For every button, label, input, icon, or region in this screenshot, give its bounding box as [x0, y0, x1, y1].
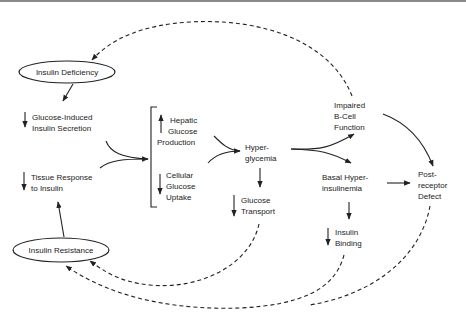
cellular-line2: Glucose: [166, 182, 196, 191]
dashed-arrow-binding-to-resistance: [66, 255, 344, 308]
hepatic-line1: Hepatic: [170, 116, 197, 125]
node-cellular-glucose-uptake: Cellular Glucose Uptake: [160, 171, 196, 202]
hyperglycemia-line2: glycemia: [245, 154, 277, 163]
basal-hyper-line1: Basal Hyper-: [322, 173, 369, 182]
glucose-transport-line2: Transport: [241, 207, 276, 216]
diagram-canvas: Insulin Deficiency Glucose-Induced Insul…: [0, 0, 466, 328]
impaired-bcell-line2: B-Cell: [334, 112, 356, 121]
arrow-merge-lower: [100, 159, 148, 168]
post-receptor-line3: Defect: [418, 192, 442, 201]
dashed-arrow-transport-to-resistance: [90, 224, 259, 286]
dashed-arrow-bcell-to-deficiency: [92, 22, 352, 96]
node-basal-hyperinsulinemia: Basal Hyper- insulinemia: [322, 173, 369, 193]
node-insulin-deficiency: Insulin Deficiency: [19, 61, 115, 83]
post-receptor-line1: Post-: [418, 170, 437, 179]
tissue-response-line1: Tissue Response: [31, 173, 93, 182]
node-tissue-response: Tissue Response to Insulin: [24, 172, 93, 193]
arrow-bcell-to-postreceptor: [383, 114, 433, 166]
basal-hyper-line2: insulinemia: [322, 184, 363, 193]
insulin-binding-line2: Binding: [335, 239, 362, 248]
node-impaired-bcell-function: Impaired B-Cell Function: [334, 101, 365, 132]
dashed-arrow-postreceptor-to-resistance: [310, 206, 430, 305]
hepatic-line3: Production: [157, 138, 195, 147]
node-insulin-binding: Insulin Binding: [328, 228, 362, 248]
arrow-merge-upper: [106, 141, 148, 159]
arrow-hyperglycemia-to-basal: [291, 149, 351, 163]
glucose-induced-line1: Glucose-Induced: [32, 113, 92, 122]
impaired-bcell-line3: Function: [334, 123, 365, 132]
node-hepatic-glucose-production: Hepatic Glucose Production: [157, 115, 198, 147]
node-insulin-resistance: Insulin Resistance: [13, 238, 109, 262]
hyperglycemia-line1: Hyper-: [245, 143, 269, 152]
arrow-resistance-to-tissue: [58, 202, 64, 237]
bracket: [151, 107, 157, 207]
glucose-induced-line2: Insulin Secretion: [32, 124, 91, 133]
node-hyperglycemia: Hyper- glycemia: [245, 143, 277, 163]
node-glucose-induced-secretion: Glucose-Induced Insulin Secretion: [25, 112, 92, 133]
post-receptor-line2: receptor: [418, 181, 448, 190]
tissue-response-line2: to Insulin: [31, 184, 63, 193]
arrow-to-hyperglycemia-lower: [208, 151, 240, 163]
arrow-to-hyperglycemia-upper: [214, 136, 240, 151]
hepatic-line2: Glucose: [168, 127, 198, 136]
glucose-transport-line1: Glucose: [241, 196, 271, 205]
arrow-hyperglycemia-to-bcell: [291, 134, 354, 149]
node-post-receptor-defect: Post- receptor Defect: [418, 170, 448, 201]
impaired-bcell-line1: Impaired: [334, 101, 365, 110]
insulin-resistance-label: Insulin Resistance: [29, 246, 94, 255]
node-glucose-transport: Glucose Transport: [234, 195, 276, 216]
insulin-deficiency-label: Insulin Deficiency: [36, 68, 98, 77]
arrow-deficiency-to-secretion: [63, 84, 73, 101]
cellular-line3: Uptake: [166, 193, 192, 202]
insulin-binding-line1: Insulin: [335, 228, 358, 237]
cellular-line1: Cellular: [166, 171, 193, 180]
